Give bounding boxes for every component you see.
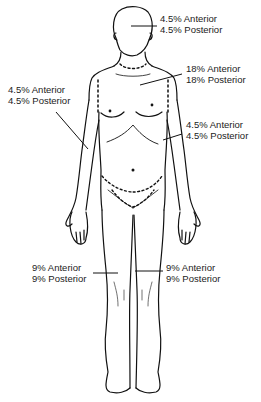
trunk-posterior: 18% Posterior [186, 74, 246, 85]
right-leg-posterior: 9% Posterior [32, 273, 86, 284]
trunk-anterior: 18% Anterior [186, 63, 246, 74]
right-arm-anterior: 4.5% Anterior [8, 84, 70, 95]
label-right-leg: 9% Anterior 9% Posterior [32, 262, 86, 284]
label-head: 4.5% Anterior 4.5% Posterior [160, 13, 222, 35]
left-arm-posterior: 4.5% Posterior [186, 130, 248, 141]
label-right-arm: 4.5% Anterior 4.5% Posterior [8, 84, 70, 106]
label-trunk: 18% Anterior 18% Posterior [186, 63, 246, 85]
left-arm-anterior: 4.5% Anterior [186, 119, 248, 130]
left-leg-posterior: 9% Posterior [166, 273, 220, 284]
right-leg-anterior: 9% Anterior [32, 262, 86, 273]
head-posterior: 4.5% Posterior [160, 24, 222, 35]
leader-lines [0, 0, 261, 402]
left-leg-anterior: 9% Anterior [166, 262, 220, 273]
right-arm-leader-line [56, 112, 88, 149]
label-left-leg: 9% Anterior 9% Posterior [166, 262, 220, 284]
right-arm-posterior: 4.5% Posterior [8, 95, 70, 106]
head-anterior: 4.5% Anterior [160, 13, 222, 24]
trunk-leader-line [140, 74, 182, 85]
label-left-arm: 4.5% Anterior 4.5% Posterior [186, 119, 248, 141]
left-arm-leader-line [163, 134, 182, 140]
